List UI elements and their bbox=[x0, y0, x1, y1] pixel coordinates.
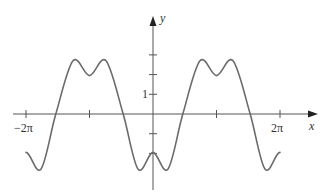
y-tick-label-1: 1 bbox=[142, 87, 148, 101]
x-tick-label-2pi: 2π bbox=[271, 121, 283, 135]
y-axis-arrow-icon bbox=[150, 16, 157, 26]
y-axis-label: y bbox=[159, 11, 166, 25]
x-axis-label: x bbox=[308, 119, 315, 133]
x-axis-arrow-icon bbox=[308, 111, 318, 118]
chart: −2π 2π 1 x y bbox=[0, 0, 330, 196]
x-tick-label-neg-2pi: −2π bbox=[14, 121, 33, 135]
